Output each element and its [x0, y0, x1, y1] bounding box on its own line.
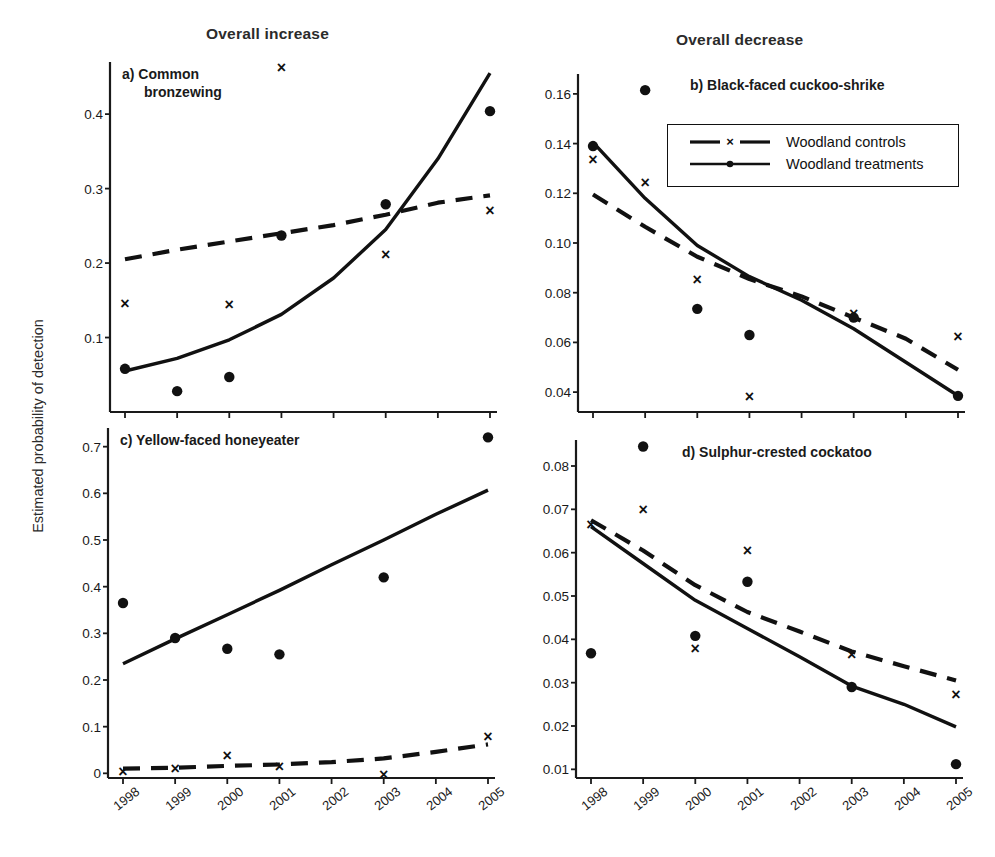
- data-point-control: ×: [225, 296, 234, 313]
- y-tick-label: 0.2: [43, 256, 103, 271]
- data-point-treatment: [274, 649, 284, 659]
- data-point-control: ×: [638, 501, 647, 518]
- legend-label-controls: Woodland controls: [786, 134, 906, 150]
- y-tick-label: 0: [41, 766, 101, 781]
- panel-d: ××××××: [571, 440, 963, 784]
- data-point-control: ×: [588, 151, 597, 168]
- data-point-treatment: [276, 230, 286, 240]
- y-tick-label: 0.4: [41, 579, 101, 594]
- y-tick-label: 0.6: [41, 486, 101, 501]
- data-point-control: ×: [743, 542, 752, 559]
- legend: × Woodland controls Woodland treatments: [667, 124, 959, 187]
- data-point-control: ×: [640, 174, 649, 191]
- data-point-control: ×: [118, 763, 127, 780]
- data-point-treatment: [744, 330, 754, 340]
- legend-label-treatments: Woodland treatments: [786, 156, 924, 172]
- y-tick-label: 0.01: [509, 762, 569, 777]
- data-point-treatment: [953, 391, 963, 401]
- figure-panel-grid: Overall increase Overall decrease Estima…: [0, 0, 995, 857]
- y-tick-label: 0.3: [41, 626, 101, 641]
- data-point-treatment: [692, 304, 702, 314]
- y-tick-label: 0.1: [43, 330, 103, 345]
- trend-line-controls: [125, 195, 490, 259]
- trend-line-treatments: [125, 73, 490, 371]
- data-point-treatment: [847, 682, 857, 692]
- y-tick-label: 0.14: [511, 136, 571, 151]
- data-point-control: ×: [745, 388, 754, 405]
- data-point-treatment: [172, 386, 182, 396]
- data-point-treatment: [120, 364, 130, 374]
- y-tick-label: 0.16: [511, 86, 571, 101]
- data-point-treatment: [849, 312, 859, 322]
- data-point-control: ×: [586, 516, 595, 533]
- data-point-control: ×: [223, 747, 232, 764]
- data-point-control: ×: [381, 246, 390, 263]
- data-point-treatment: [170, 633, 180, 643]
- panel-a: ×××××: [105, 59, 497, 418]
- data-point-treatment: [379, 572, 389, 582]
- data-point-control: ×: [483, 728, 492, 745]
- svg-text:×: ×: [726, 134, 734, 149]
- data-point-control: ×: [120, 295, 129, 312]
- data-point-treatment: [224, 372, 234, 382]
- y-tick-label: 0.03: [509, 675, 569, 690]
- data-point-treatment: [690, 631, 700, 641]
- trend-line-treatments: [591, 527, 956, 727]
- panel-c: ××××××: [103, 428, 495, 784]
- data-point-treatment: [118, 598, 128, 608]
- y-tick-label: 0.3: [43, 181, 103, 196]
- y-tick-label: 0.4: [43, 107, 103, 122]
- data-point-control: ×: [379, 766, 388, 783]
- data-point-control: ×: [847, 646, 856, 663]
- data-point-treatment: [640, 85, 650, 95]
- data-point-treatment: [638, 441, 648, 451]
- y-tick-label: 0.2: [41, 673, 101, 688]
- y-tick-label: 0.07: [509, 502, 569, 517]
- y-tick-label: 0.1: [41, 719, 101, 734]
- y-tick-label: 0.04: [511, 385, 571, 400]
- data-point-control: ×: [951, 686, 960, 703]
- data-point-treatment: [586, 648, 596, 658]
- trend-line-controls: [593, 195, 958, 370]
- y-tick-label: 0.02: [509, 719, 569, 734]
- y-tick-label: 0.12: [511, 186, 571, 201]
- y-tick-label: 0.04: [509, 632, 569, 647]
- data-point-treatment: [742, 577, 752, 587]
- trend-line-controls: [591, 520, 956, 680]
- data-point-treatment: [222, 644, 232, 654]
- data-point-control: ×: [275, 758, 284, 775]
- data-point-control: ×: [693, 271, 702, 288]
- data-point-control: ×: [170, 760, 179, 777]
- data-point-treatment: [483, 432, 493, 442]
- data-point-control: ×: [485, 202, 494, 219]
- y-tick-label: 0.7: [41, 439, 101, 454]
- y-tick-label: 0.10: [511, 236, 571, 251]
- data-point-treatment: [951, 759, 961, 769]
- data-point-treatment: [588, 141, 598, 151]
- data-point-control: ×: [953, 328, 962, 345]
- y-tick-label: 0.5: [41, 533, 101, 548]
- y-tick-label: 0.06: [511, 335, 571, 350]
- data-point-control: ×: [691, 640, 700, 657]
- data-point-treatment: [485, 106, 495, 116]
- y-tick-label: 0.06: [509, 545, 569, 560]
- data-point-control: ×: [277, 59, 286, 76]
- y-tick-label: 0.08: [509, 459, 569, 474]
- y-tick-label: 0.05: [509, 589, 569, 604]
- data-point-treatment: [381, 199, 391, 209]
- y-tick-label: 0.08: [511, 285, 571, 300]
